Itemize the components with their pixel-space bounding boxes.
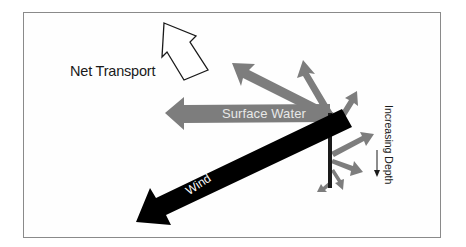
ekman-spiral-diagram: Net Transport Surface Water Wind Increas… xyxy=(0,0,466,247)
increasing-depth-label: Increasing Depth xyxy=(383,105,395,184)
net-transport-arrow-icon xyxy=(162,23,208,80)
surface-water-label: Surface Water xyxy=(222,106,306,121)
depth-arrow-down-icon xyxy=(331,169,344,190)
wind-arrow-icon xyxy=(136,109,352,225)
diagram-graphics xyxy=(0,0,466,247)
net-transport-label: Net Transport xyxy=(70,63,155,79)
increasing-depth-arrow-icon xyxy=(374,150,380,177)
depth-arrow-right-icon xyxy=(331,132,374,157)
